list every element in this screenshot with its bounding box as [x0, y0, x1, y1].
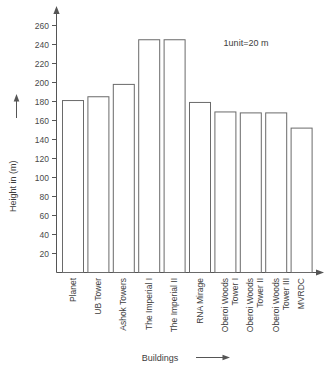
bar: [139, 40, 160, 273]
bar-chart-figure: 20406080100120140160180200220240260 Plan…: [0, 0, 331, 373]
x-axis-title-arrow-icon: [223, 355, 231, 361]
x-tick-label: Tower III: [281, 278, 291, 310]
x-tick-label: Oberoi Woods: [245, 278, 255, 332]
bar: [266, 113, 287, 273]
bar: [240, 113, 261, 273]
bar: [88, 97, 109, 273]
y-tick-label: 240: [35, 40, 49, 50]
x-tick-label: Tower I: [230, 278, 240, 305]
bar: [291, 128, 312, 272]
x-axis-arrow-icon: [316, 269, 324, 275]
x-tick-label: RNA Mirage: [195, 278, 205, 324]
y-axis-arrow-icon: [53, 6, 59, 14]
bar: [164, 40, 185, 273]
y-tick-label: 180: [35, 97, 49, 107]
y-tick-label: 60: [40, 211, 50, 221]
y-tick-label: 160: [35, 116, 49, 126]
y-tick-label: 80: [40, 192, 50, 202]
bar: [215, 112, 236, 273]
bar: [113, 84, 134, 272]
y-tick-label: 40: [40, 230, 50, 240]
x-tick-label: Oberoi Woods: [271, 278, 281, 332]
x-tick-label: UB Tower: [93, 278, 103, 315]
y-tick-label: 120: [35, 154, 49, 164]
x-tick-label: The Imperial II: [169, 278, 179, 332]
y-axis-title-group: Height in (m): [8, 94, 19, 212]
x-axis-title-group: Buildings: [142, 353, 230, 363]
y-axis-ticks: 20406080100120140160180200220240260: [35, 21, 57, 259]
unit-annotation: 1unit=20 m: [224, 38, 269, 48]
x-axis-category-labels: PlanetUB TowerAshok TowersThe Imperial I…: [68, 277, 307, 332]
x-tick-label: Oberoi Woods: [220, 278, 230, 332]
x-tick-label: MVRDC: [296, 278, 306, 309]
y-axis-title-arrow-icon: [14, 94, 20, 102]
x-tick-label: Tower II: [255, 278, 265, 308]
chart-canvas: 20406080100120140160180200220240260 Plan…: [0, 0, 331, 373]
bar: [190, 102, 211, 272]
y-tick-label: 200: [35, 78, 49, 88]
y-axis-title: Height in (m): [8, 160, 18, 212]
y-tick-label: 20: [40, 249, 50, 259]
bar: [63, 101, 84, 273]
y-tick-label: 100: [35, 173, 49, 183]
y-tick-label: 220: [35, 59, 49, 69]
y-tick-label: 140: [35, 135, 49, 145]
x-tick-label: Planet: [68, 277, 78, 302]
bar-series: [63, 40, 313, 273]
x-axis-title: Buildings: [142, 353, 179, 363]
x-tick-label: Ashok Towers: [118, 278, 128, 331]
y-tick-label: 260: [35, 21, 49, 31]
x-tick-label: The Imperial I: [144, 278, 154, 330]
